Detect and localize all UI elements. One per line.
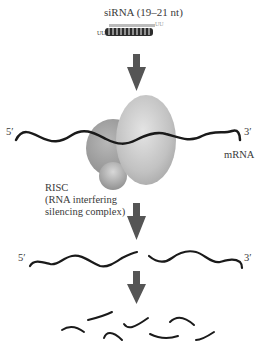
sirna-title: siRNA (19–21 nt): [104, 6, 183, 18]
sirna-duplex-icon: [105, 24, 155, 36]
sirna-overhang-left: UU: [97, 30, 106, 36]
arrow-down-icon: [127, 54, 146, 91]
five-prime-label-cleaved: 5′: [18, 252, 26, 264]
three-prime-label-cleaved: 3′: [244, 252, 252, 264]
mrna-label: mRNA: [224, 149, 254, 161]
risc-desc-line1: (RNA interfering: [45, 194, 117, 206]
cleaved-mrna-right: [149, 251, 242, 268]
arrow-down-icon: [127, 271, 146, 304]
three-prime-label: 3′: [244, 126, 252, 138]
risc-label: RISC: [45, 182, 68, 194]
mrna-fragments: [62, 312, 214, 340]
cleaved-mrna-left: [30, 252, 137, 266]
sirna-overhang-right: UU: [155, 21, 164, 27]
five-prime-label: 5′: [6, 126, 14, 138]
risc-desc-line2: silencing complex): [45, 206, 125, 218]
arrow-down-icon: [127, 203, 146, 240]
rnai-diagram: [0, 0, 265, 350]
